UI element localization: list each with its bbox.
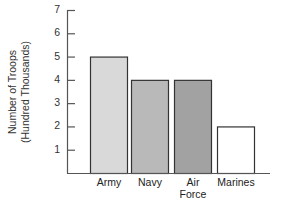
bar-army: [91, 57, 128, 173]
bar-air-force: [175, 80, 212, 173]
y-tick-label-6: 6: [50, 26, 60, 38]
y-axis-label: Number of Troops (Hundred Thousands): [6, 12, 38, 172]
y-axis-label-line-2: (Hundred Thousands): [19, 12, 32, 172]
y-tick-label-3: 3: [50, 96, 60, 108]
x-tick-label-marines: Marines: [211, 176, 261, 188]
bar-marines: [218, 127, 255, 174]
y-tick-label-5: 5: [50, 50, 60, 62]
bar-navy: [132, 80, 169, 173]
y-axis-label-line-1: Number of Troops: [6, 12, 19, 172]
y-tick-label-7: 7: [50, 3, 60, 15]
bar-chart: Number of Troops (Hundred Thousands) 123…: [0, 0, 288, 200]
y-tick-label-4: 4: [50, 73, 60, 85]
y-tick-label-2: 2: [50, 119, 60, 131]
y-tick-label-1: 1: [50, 143, 60, 155]
plot-area: [0, 0, 288, 200]
